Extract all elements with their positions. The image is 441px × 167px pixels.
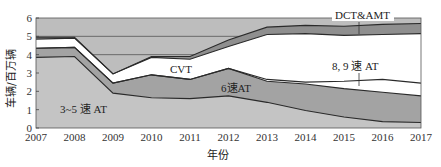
y-tick-label: 4	[27, 49, 33, 61]
annotation-3-5-speed-at: 3~5 速 AT	[60, 103, 107, 115]
y-tick-label: 5	[27, 30, 33, 42]
x-tick-label: 2014	[295, 131, 318, 143]
y-tick-label: 3	[27, 67, 33, 79]
y-axis-label: 车辆/百万辆	[4, 49, 18, 108]
x-tick-label: 2013	[256, 131, 279, 143]
x-tick-label: 2017	[410, 131, 433, 143]
x-tick-label: 2007	[25, 131, 48, 143]
x-tick-label: 2010	[141, 131, 164, 143]
x-tick-label: 2008	[64, 131, 87, 143]
annotation-6-speed-at: 6速AT	[221, 82, 251, 94]
x-tick-label: 2016	[372, 131, 395, 143]
x-tick-label: 2015	[333, 131, 356, 143]
annotation-8-9-speed-at: 8, 9 速 AT	[332, 60, 379, 72]
y-tick-label: 6	[27, 12, 33, 24]
x-tick-label: 2011	[179, 131, 201, 143]
annotation-dct-amt: DCT&AMT	[335, 9, 390, 21]
x-axis-label: 年份	[207, 148, 229, 162]
x-tick-label: 2012	[218, 131, 240, 143]
y-tick-label: 1	[27, 104, 33, 116]
x-tick-label: 2009	[102, 131, 125, 143]
stacked-area-chart: 0123456200720082009201020112012201320142…	[0, 0, 441, 167]
annotation-cvt: CVT	[170, 63, 192, 75]
y-tick-label: 2	[27, 85, 33, 97]
